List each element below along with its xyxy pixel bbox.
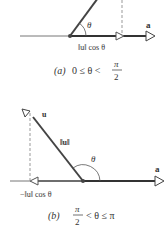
caption-condition: < θ ≤ π (86, 210, 114, 221)
arrowhead-a-icon (146, 31, 155, 41)
angle-label: θ (91, 154, 96, 164)
projection-arrowhead-icon (30, 177, 38, 185)
origin-point (68, 34, 72, 38)
caption-condition: 0 ≤ θ < (72, 65, 101, 76)
origin-point (81, 179, 85, 183)
caption-prefix: (b) (48, 210, 60, 222)
vector-u (33, 117, 83, 181)
vector-projection-diagram: θ a ‖u‖ cos θ (a) 0 ≤ θ < π 2 u ‖u‖ θ a … (0, 0, 168, 232)
vector-u-label: u (42, 110, 47, 119)
angle-label: θ (87, 20, 92, 30)
vector-a-label: a (146, 20, 151, 30)
panel-b: u ‖u‖ θ a −‖u‖ cos θ (b) π 2 < θ ≤ π (10, 109, 164, 227)
angle-arc (79, 23, 86, 36)
caption-prefix: (a) (54, 65, 66, 77)
caption-frac-den: 2 (75, 217, 80, 227)
arrowhead-a-icon (155, 176, 164, 186)
arrowhead-u-icon (22, 109, 30, 117)
projection-label: −‖u‖ cos θ (20, 190, 52, 199)
panel-a: θ a ‖u‖ cos θ (a) 0 ≤ θ < π 2 (20, 0, 155, 82)
norm-label: ‖u‖ (60, 138, 70, 147)
caption-frac-num: π (114, 59, 119, 69)
caption-frac-num: π (75, 204, 80, 214)
projection-label: ‖u‖ cos θ (78, 43, 105, 52)
projection-arrowhead-icon (116, 32, 124, 40)
caption-frac-den: 2 (114, 72, 119, 82)
vector-u (70, 0, 98, 36)
vector-a-label: a (155, 164, 160, 174)
